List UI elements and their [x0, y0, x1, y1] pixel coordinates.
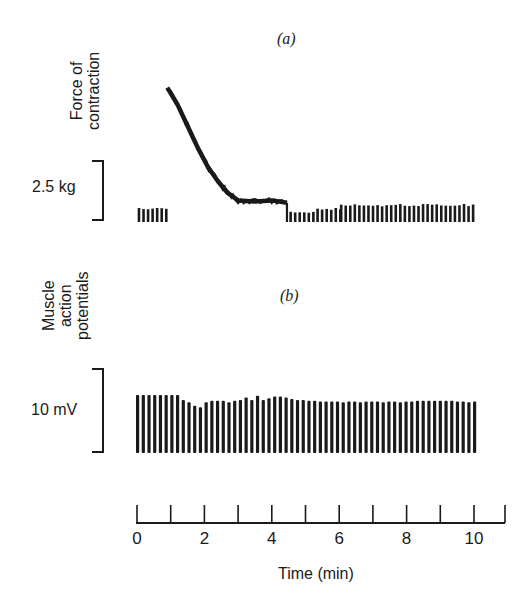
action-potential-bar	[262, 400, 265, 453]
twitch-bar	[454, 206, 457, 222]
twitch-bar	[440, 205, 443, 222]
action-potential-bar	[176, 395, 179, 453]
action-potential-bar	[239, 400, 242, 453]
force-ylabel: Force of contraction	[68, 52, 102, 130]
twitch-bar	[435, 204, 438, 222]
twitch-bar	[390, 205, 393, 222]
twitch-bar	[376, 205, 379, 222]
action-potential-bar	[210, 401, 213, 453]
twitch-bar	[431, 205, 434, 222]
action-potential-bar	[376, 402, 379, 453]
twitch-bar	[165, 209, 168, 222]
action-potential-bar	[182, 400, 185, 453]
voltage-scale-bar	[92, 369, 103, 452]
action-potential-bar	[285, 397, 288, 453]
action-potential-bar	[307, 401, 310, 453]
action-potential-bar	[353, 402, 356, 453]
action-potential-bar	[427, 401, 430, 453]
action-potential-bar	[347, 402, 350, 453]
twitch-bar	[156, 208, 159, 222]
twitch-bar	[472, 205, 475, 222]
twitch-bar	[330, 210, 333, 222]
force-trace	[138, 88, 475, 222]
action-potential-bar	[444, 401, 447, 453]
twitch-bar	[408, 206, 411, 222]
action-potential-bar	[296, 400, 299, 453]
action-potential-bar	[170, 395, 173, 453]
tick-label: 2	[200, 529, 209, 549]
twitch-bar	[138, 208, 141, 222]
x-axis-title: Time (min)	[278, 565, 354, 583]
action-potential-bar	[404, 402, 407, 453]
action-potential-bar	[279, 397, 282, 453]
twitch-bar	[334, 208, 337, 222]
twitch-bar	[463, 204, 466, 222]
action-potential-bars	[136, 395, 476, 453]
action-potential-bar	[387, 402, 390, 453]
action-potential-bar	[393, 402, 396, 453]
twitch-bar	[467, 206, 470, 222]
tetanus-noise	[167, 89, 284, 203]
tick-label: 10	[465, 529, 484, 549]
twitch-bar	[417, 206, 420, 222]
action-potential-bar	[227, 402, 230, 453]
action-potential-bar	[422, 401, 425, 453]
action-potential-bar	[462, 402, 465, 453]
twitch-bar	[399, 204, 402, 222]
action-potential-bar	[416, 401, 419, 453]
tick-label: 8	[402, 529, 411, 549]
action-potential-bar	[250, 400, 253, 453]
twitch-bar	[354, 204, 357, 222]
action-potential-bar	[364, 402, 367, 453]
action-potential-bar	[336, 402, 339, 453]
action-potential-bar	[273, 397, 276, 453]
action-potential-bar	[342, 402, 345, 453]
action-potential-bar	[256, 396, 259, 453]
twitch-bar	[349, 206, 352, 222]
twitch-bar	[394, 205, 397, 222]
twitch-bar	[340, 205, 343, 222]
action-potential-bar	[410, 402, 413, 453]
action-potential-bar	[313, 401, 316, 453]
action-potential-bar	[165, 395, 168, 453]
twitch-bar	[413, 206, 416, 222]
action-potential-bar	[205, 402, 208, 453]
tick-label: 0	[132, 529, 141, 549]
twitch-bar	[385, 205, 388, 222]
twitch-bar	[344, 206, 347, 222]
twitch-bar	[381, 206, 384, 222]
twitch-bar	[372, 206, 375, 222]
twitch-bar	[312, 212, 315, 222]
time-axis	[136, 505, 505, 523]
action-potential-bar	[267, 398, 270, 453]
action-potential-bar	[159, 395, 162, 453]
twitch-bar	[142, 209, 145, 222]
ap-ylabel: Muscle action potentials	[40, 272, 91, 341]
force-scale-bar	[92, 161, 103, 220]
twitch-bar	[294, 212, 297, 222]
action-potential-bar	[473, 402, 476, 453]
action-potential-bar	[136, 395, 139, 453]
force-scale-label: 2.5 kg	[32, 178, 76, 196]
twitch-bar	[325, 209, 328, 222]
action-potential-bar	[382, 402, 385, 453]
twitch-bar	[151, 209, 154, 222]
panel-b-label: (b)	[280, 287, 299, 305]
twitch-bar	[316, 209, 319, 222]
action-potential-bar	[153, 395, 156, 453]
twitch-bar	[160, 208, 163, 222]
action-potential-bar	[439, 401, 442, 453]
panel-a-label: (a)	[277, 30, 296, 48]
twitch-bar	[458, 205, 461, 222]
twitch-bar	[321, 209, 324, 222]
action-potential-bar	[290, 399, 293, 453]
action-potential-bar	[199, 407, 202, 453]
action-potential-bar	[370, 402, 373, 453]
action-potential-bar	[245, 397, 248, 453]
action-potential-bar	[324, 402, 327, 453]
action-potential-bar	[330, 402, 333, 453]
action-potential-bar	[187, 402, 190, 453]
action-potential-bar	[399, 402, 402, 453]
twitch-bar	[445, 206, 448, 222]
twitch-bar	[449, 206, 452, 222]
